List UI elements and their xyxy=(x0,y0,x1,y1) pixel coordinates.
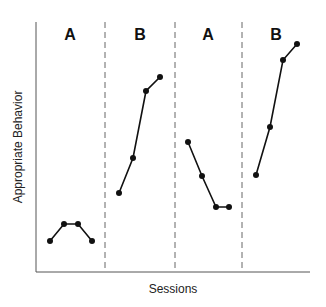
data-point xyxy=(226,204,232,210)
series-line-2 xyxy=(119,77,160,193)
x-axis-title: Sessions xyxy=(149,282,198,296)
series-line-3 xyxy=(188,142,229,207)
data-point xyxy=(267,124,273,130)
data-point xyxy=(185,139,191,145)
data-point xyxy=(157,74,163,80)
data-point xyxy=(143,88,149,94)
phase-label-a1: A xyxy=(64,26,76,43)
phase-label-b2: B xyxy=(270,26,282,43)
y-axis-title: Appropriate Behavior xyxy=(11,91,25,204)
phase-label-a2: A xyxy=(202,26,214,43)
data-point xyxy=(253,172,259,178)
data-point xyxy=(75,221,81,227)
data-point xyxy=(213,204,219,210)
data-point xyxy=(199,173,205,179)
data-point xyxy=(61,221,67,227)
data-point xyxy=(47,238,53,244)
phase-label-b1: B xyxy=(134,26,146,43)
series-line-4 xyxy=(256,44,297,175)
data-point xyxy=(130,155,136,161)
data-point xyxy=(89,238,95,244)
data-point xyxy=(294,41,300,47)
data-point xyxy=(280,57,286,63)
series-line-1 xyxy=(50,224,92,241)
data-point xyxy=(116,190,122,196)
abab-chart: A B A B Sessions Appropriate Behavior xyxy=(0,0,326,307)
data-series xyxy=(47,41,300,244)
